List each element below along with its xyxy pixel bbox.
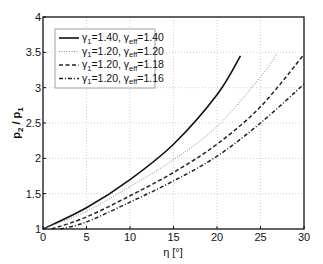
curve-series-4	[60, 84, 304, 229]
y-tick-label: 3	[35, 82, 41, 94]
y-tick-label: 1.5	[26, 188, 41, 200]
x-tick-label: 25	[254, 231, 266, 243]
y-tick-label: 1	[35, 223, 41, 235]
y-tick-label: 3.5	[26, 46, 41, 58]
x-tick-label: 20	[211, 231, 223, 243]
y-tick-label: 2	[35, 152, 41, 164]
y-tick-label: 4	[35, 11, 41, 23]
x-tick-label: 10	[124, 231, 136, 243]
y-axis-label: p2 / p1	[10, 107, 25, 139]
legend: γ1=1.40, γeff=1.40γ1=1.20, γeff=1.20γ1=1…	[55, 29, 164, 88]
x-axis-label: η[°]	[163, 246, 183, 258]
y-tick-label: 2.5	[26, 117, 41, 129]
x-tick-label: 30	[298, 231, 310, 243]
chart: 051015202530 11.522.533.54 η[°] p2 / p1 …	[0, 0, 323, 264]
x-tick-label: 5	[83, 231, 89, 243]
x-tick-label: 15	[167, 231, 179, 243]
